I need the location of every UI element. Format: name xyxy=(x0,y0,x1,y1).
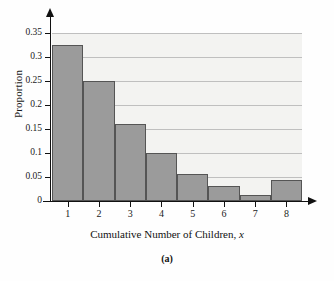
x-axis-tick xyxy=(286,202,287,207)
y-axis-tick xyxy=(45,177,51,178)
y-axis-tick-label: 0.35 xyxy=(0,28,42,38)
gridline xyxy=(52,57,302,58)
x-axis-tick xyxy=(68,202,69,207)
figure-caption: (a) xyxy=(0,253,334,264)
y-axis-line xyxy=(50,14,51,202)
bar xyxy=(146,153,177,201)
y-axis-tick-label: 0.2 xyxy=(0,100,42,110)
y-axis-tick-label: 0.25 xyxy=(0,76,42,86)
bar xyxy=(208,186,239,201)
y-axis-tick-label: 0.3 xyxy=(0,52,42,62)
y-axis-tick xyxy=(45,33,51,34)
y-axis-tick-label: 0 xyxy=(0,196,42,206)
x-axis-title-text: Cumulative Number of Children, xyxy=(90,228,239,240)
x-axis-tick-label: 2 xyxy=(84,209,114,219)
bar xyxy=(115,124,146,201)
figure-panel-a: Proportion Cumulative Number of Children… xyxy=(0,0,334,281)
x-axis-arrow-icon xyxy=(308,197,317,205)
y-axis-arrow-icon xyxy=(46,8,54,17)
x-axis-tick-label: 4 xyxy=(146,209,176,219)
x-axis-tick-label: 3 xyxy=(115,209,145,219)
y-axis-tick xyxy=(45,153,51,154)
y-axis-tick-label: 0.1 xyxy=(0,148,42,158)
x-axis-tick-label: 5 xyxy=(178,209,208,219)
x-axis-tick-label: 7 xyxy=(240,209,270,219)
x-axis-tick xyxy=(161,202,162,207)
y-axis-tick xyxy=(45,105,51,106)
bar xyxy=(271,180,302,201)
y-axis-tick xyxy=(45,57,51,58)
x-axis-tick xyxy=(224,202,225,207)
bar xyxy=(240,195,271,201)
bar xyxy=(177,174,208,201)
x-axis-tick xyxy=(99,202,100,207)
x-axis-title: Cumulative Number of Children, x xyxy=(0,228,334,240)
x-axis-tick-label: 1 xyxy=(53,209,83,219)
x-axis-tick xyxy=(130,202,131,207)
bar xyxy=(52,45,83,201)
y-axis-tick xyxy=(45,201,51,202)
x-axis-tick xyxy=(255,202,256,207)
x-axis-line xyxy=(43,201,310,202)
x-axis-tick xyxy=(193,202,194,207)
x-axis-tick-label: 8 xyxy=(271,209,301,219)
y-axis-tick-label: 0.05 xyxy=(0,172,42,182)
x-axis-title-variable: x xyxy=(239,228,244,240)
bar xyxy=(83,81,114,201)
y-axis-tick xyxy=(45,81,51,82)
y-axis-tick-label: 0.15 xyxy=(0,124,42,134)
y-axis-tick xyxy=(45,129,51,130)
gridline xyxy=(52,33,302,34)
x-axis-tick-label: 6 xyxy=(209,209,239,219)
